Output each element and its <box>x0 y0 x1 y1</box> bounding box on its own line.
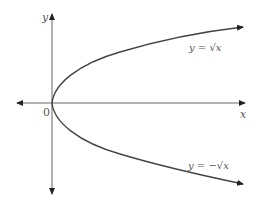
curve-neg-sqrt <box>52 103 243 184</box>
neg-sqrt-label: y = −√x <box>187 160 229 171</box>
origin-label: 0 <box>43 106 50 119</box>
curve-sqrt <box>52 27 243 103</box>
y-axis-label: y <box>41 11 49 24</box>
sqrt-label: y = √x <box>188 42 222 53</box>
x-axis-label: x <box>240 108 247 121</box>
graph: y x 0 y = √x y = −√x <box>0 0 259 209</box>
